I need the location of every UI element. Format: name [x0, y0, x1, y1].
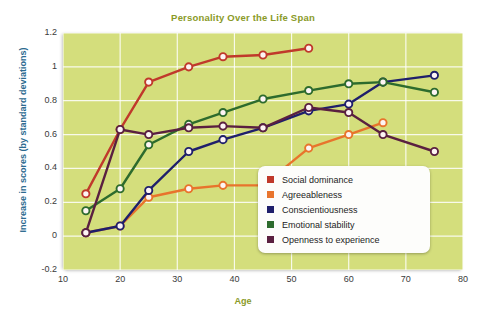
data-point	[305, 104, 312, 111]
data-point	[219, 182, 226, 189]
x-axis-label: Age	[0, 296, 486, 306]
legend-swatch-icon	[267, 191, 274, 198]
legend-item[interactable]: Agreeableness	[267, 187, 422, 202]
data-point	[305, 87, 312, 94]
data-point	[185, 185, 192, 192]
data-point	[345, 109, 352, 116]
x-tick-label: 20	[100, 274, 140, 284]
x-tick-label: 30	[157, 274, 197, 284]
legend-item[interactable]: Emotional stability	[267, 217, 422, 232]
data-point	[259, 124, 266, 131]
data-point	[219, 136, 226, 143]
data-point	[219, 53, 226, 60]
data-point	[305, 45, 312, 52]
y-tick-label: 1.2	[17, 27, 57, 37]
x-tick-label: 70	[386, 274, 426, 284]
data-point	[117, 126, 124, 133]
data-point	[431, 89, 438, 96]
data-point	[379, 119, 386, 126]
data-point	[117, 222, 124, 229]
legend-swatch-icon	[267, 176, 274, 183]
x-tick-label: 10	[43, 274, 83, 284]
data-point	[345, 131, 352, 138]
data-point	[185, 148, 192, 155]
data-point	[431, 148, 438, 155]
data-point	[219, 123, 226, 130]
legend-label: Emotional stability	[282, 220, 355, 230]
y-tick-label: 1	[17, 61, 57, 71]
legend-item[interactable]: Openness to experience	[267, 232, 422, 247]
data-point	[345, 101, 352, 108]
y-tick-label: 0.4	[17, 162, 57, 172]
legend-item[interactable]: Social dominance	[267, 172, 422, 187]
data-point	[185, 63, 192, 70]
data-point	[185, 124, 192, 131]
legend-label: Openness to experience	[282, 235, 380, 245]
x-tick-label: 60	[329, 274, 369, 284]
data-point	[379, 131, 386, 138]
data-point	[431, 72, 438, 79]
x-tick-label: 50	[272, 274, 312, 284]
data-point	[379, 78, 386, 85]
legend-label: Social dominance	[282, 175, 353, 185]
chart-container: Personality Over the Life Span Increase …	[0, 0, 486, 319]
data-point	[345, 80, 352, 87]
data-point	[145, 131, 152, 138]
data-point	[259, 51, 266, 58]
data-point	[82, 229, 89, 236]
legend-label: Conscientiousness	[282, 205, 358, 215]
y-tick-label: 0.2	[17, 196, 57, 206]
data-point	[82, 207, 89, 214]
legend-swatch-icon	[267, 221, 274, 228]
legend-swatch-icon	[267, 206, 274, 213]
x-tick-label: 40	[214, 274, 254, 284]
y-tick-label: 0	[17, 230, 57, 240]
data-point	[219, 109, 226, 116]
data-point	[82, 190, 89, 197]
data-point	[305, 145, 312, 152]
y-tick-label: 0.6	[17, 129, 57, 139]
data-point	[145, 187, 152, 194]
data-point	[145, 78, 152, 85]
legend-label: Agreeableness	[282, 190, 342, 200]
y-tick-label: -0.2	[17, 264, 57, 274]
legend-item[interactable]: Conscientiousness	[267, 202, 422, 217]
x-tick-label: 80	[443, 274, 483, 284]
legend-swatch-icon	[267, 236, 274, 243]
chart-title: Personality Over the Life Span	[0, 12, 486, 23]
data-point	[117, 185, 124, 192]
chart-legend: Social dominanceAgreeablenessConscientio…	[258, 166, 430, 253]
data-point	[259, 95, 266, 102]
y-tick-label: 0.8	[17, 95, 57, 105]
data-point	[145, 141, 152, 148]
